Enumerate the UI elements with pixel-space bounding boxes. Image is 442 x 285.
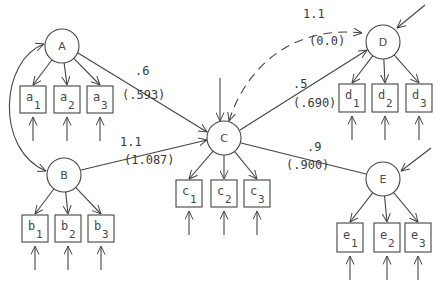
indicator-subscript: 3: [420, 97, 427, 110]
loading-arrow: [189, 151, 213, 179]
indicator-label: a: [93, 90, 100, 104]
indicator-label: c: [217, 184, 224, 198]
ce-coefficient: .9: [307, 140, 321, 154]
disturbance-e-arrow: [401, 148, 431, 171]
latent-label: A: [58, 40, 66, 53]
ce-estimate: (.900): [286, 158, 329, 172]
ac-estimate: (.593): [122, 88, 165, 102]
loading-arrow: [384, 59, 385, 83]
loading-arrow: [66, 192, 68, 214]
latent-d: D: [366, 25, 400, 59]
indicator-subscript: 1: [351, 237, 358, 250]
indicator-label: e: [411, 228, 418, 242]
indicator-subscript: 2: [68, 99, 75, 112]
bc-coefficient: 1.1: [120, 135, 142, 149]
latent-a: A: [45, 29, 79, 63]
indicator-label: c: [182, 184, 189, 198]
indicator-d3: d3: [394, 55, 432, 140]
indicator-a1: a1: [20, 60, 52, 141]
loading-arrow: [394, 192, 418, 222]
cd-estimate: (.690): [293, 96, 336, 110]
latent-label: D: [379, 36, 387, 49]
indicator-label: b: [61, 219, 68, 233]
indicator-label: d: [378, 88, 385, 102]
indicator-label: d: [412, 88, 419, 102]
indicator-label: d: [345, 88, 352, 102]
indicator-label: a: [60, 90, 67, 104]
dashed-estimate: (0.0): [309, 34, 345, 48]
latent-e: E: [366, 162, 400, 196]
indicator-c2: c2: [211, 155, 237, 235]
indicator-label: a: [26, 90, 33, 104]
loading-arrow: [235, 151, 257, 179]
indicator-subscript: 1: [190, 193, 197, 206]
dashed-coefficient: 1.1: [303, 7, 325, 21]
indicator-label: e: [343, 228, 350, 242]
loading-arrow: [74, 58, 100, 85]
loading-arrow: [385, 196, 387, 222]
indicator-subscript: 3: [258, 193, 265, 206]
path-diagram: a1a2a3b1b2b3c1c2c3d1d2d3e1e2e3 ABCDE .6 …: [0, 0, 442, 285]
indicator-subscript: 3: [419, 237, 426, 250]
latent-label: E: [380, 173, 387, 186]
indicator-label: e: [380, 228, 387, 242]
loading-arrow: [76, 187, 101, 214]
loading-arrow: [35, 189, 54, 214]
indicator-label: b: [94, 219, 101, 233]
indicator-label: c: [250, 184, 257, 198]
indicator-a2: a2: [54, 63, 80, 141]
indicator-subscript: 1: [36, 228, 43, 241]
latent-c: C: [207, 121, 241, 155]
indicator-e2: e2: [374, 196, 400, 280]
indicator-d1: d1: [339, 56, 373, 140]
indicator-subscript: 3: [102, 228, 109, 241]
latent-label: C: [220, 132, 228, 145]
indicator-subscript: 2: [386, 97, 393, 110]
indicator-subscript: 2: [388, 237, 395, 250]
indicator-b2: b2: [55, 192, 81, 270]
indicator-e1: e1: [337, 193, 373, 280]
latent-label: B: [60, 169, 68, 182]
bc-estimate: (1.087): [124, 153, 175, 167]
latent-b: B: [47, 158, 81, 192]
indicator-subscript: 2: [69, 228, 76, 241]
indicator-label: b: [28, 219, 35, 233]
indicator-subscript: 1: [34, 99, 41, 112]
indicator-c1: c1: [176, 151, 213, 235]
loading-arrow: [350, 193, 373, 222]
disturbance-d-arrow: [397, 5, 425, 28]
loading-arrow: [352, 56, 373, 83]
loading-arrow: [64, 63, 67, 85]
loading-arrow: [394, 55, 419, 83]
indicator-subscript: 1: [353, 97, 360, 110]
indicator-subscript: 3: [101, 99, 108, 112]
loading-arrow: [33, 60, 52, 85]
cd-coefficient: .5: [293, 77, 307, 91]
indicator-d2: d2: [372, 59, 398, 140]
ac-coefficient: .6: [135, 64, 149, 78]
indicator-b1: b1: [22, 189, 54, 270]
indicator-c3: c3: [235, 151, 270, 235]
indicator-subscript: 2: [225, 193, 232, 206]
